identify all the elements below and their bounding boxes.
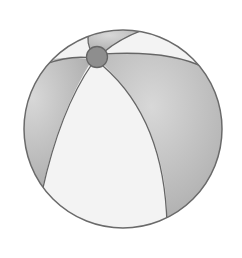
beach-ball-illustration	[0, 0, 242, 258]
beach-ball-icon	[0, 0, 242, 258]
ball-cap-icon	[87, 47, 108, 68]
